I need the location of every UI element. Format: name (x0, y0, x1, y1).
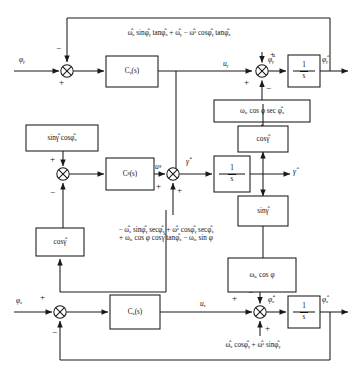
middle-summer-minus-bottom: − (50, 188, 55, 197)
top-input-label: φᵧ (19, 56, 25, 64)
bottom-input-label: φₓ (16, 297, 22, 305)
top-control-signal-label: uᵧ (223, 60, 228, 68)
middle-summer-plus-top: + (50, 155, 55, 164)
top-summer-minus-sign: − (56, 44, 61, 53)
bottom-summer2-plus-left: + (232, 294, 237, 303)
top-summer2-minus-bottom: − (266, 84, 271, 93)
block-diagram-canvas: φᵧ + − Cᵧ(s) uᵧ + + − φ̇̂ᵧ 1 s φ̂ᵧ ω̂ₓ s… (0, 0, 358, 373)
bottom-summer2-plus-bottom: + (265, 324, 270, 333)
middle-summer2-plus-bottom: + (177, 186, 182, 195)
bottom-control-signal-label: uₓ (200, 300, 206, 308)
middle-output-label: γ̂ (293, 168, 296, 176)
middle-state-dot-label: γ̇̂ (186, 158, 189, 166)
bottom-summer-minus-sign: − (52, 328, 57, 337)
bottom-feedback-formula: ω̂ₓ cosφ̂ᵧ + ω̂ᶻ sinφ̂ᵧ (178, 341, 328, 350)
bottom-state-dot-label: φ̇̂ₓ (268, 296, 274, 304)
bottom-summer-plus-sign: + (40, 293, 45, 302)
middle-control-signal-label: uᵍ (155, 163, 161, 171)
top-summer2-plus-left: + (244, 78, 249, 87)
top-summer-plus-sign: + (59, 78, 64, 87)
middle-formula-line2: + ωᵢₑ cos φ cosγ̂ tanφ̂ₓ − ωᵢₑ sin φ (86, 234, 246, 243)
top-feedback-formula: ω̂ₓ sinφ̂ᵧ tanφ̂ₓ + ω̂ᵧ − ω̂ᶻ cosφ̂ᵧ tan… (0, 29, 358, 38)
top-output-label: φ̂ᵧ (322, 56, 328, 64)
top-state-dot-label: φ̇̂ᵧ (268, 56, 274, 64)
bottom-summer2-minus-top: − (248, 288, 253, 297)
bottom-output-label: φ̂ₓ (322, 296, 328, 304)
middle-summer2-plus-left: + (156, 182, 161, 191)
